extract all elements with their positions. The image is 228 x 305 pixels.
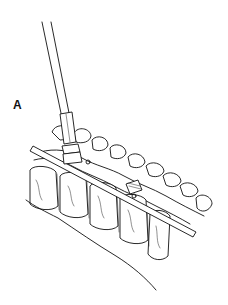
spine-instrumentation-illustration: A (0, 0, 228, 305)
illustration-drawing (0, 0, 228, 305)
